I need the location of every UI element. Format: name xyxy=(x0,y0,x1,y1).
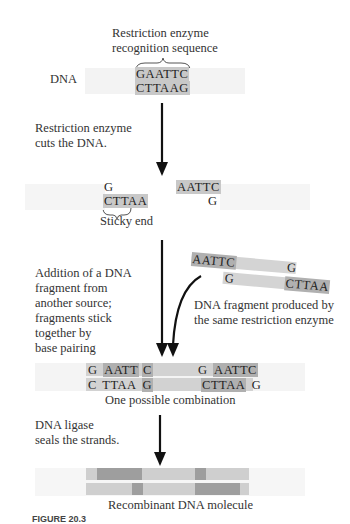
step-ligase-label: DNA ligase seals the strands. xyxy=(35,418,119,448)
sticky-end-label: Sticky end xyxy=(100,214,153,229)
recombinant-label: Recombinant DNA molecule xyxy=(108,498,253,513)
dna-label: DNA xyxy=(50,72,77,87)
recognition-sequence-label: Restriction enzyme recognition sequence xyxy=(112,26,218,56)
recognition-bottom-strand: CTTAAG xyxy=(135,82,190,95)
combination-top-strand: G AATTCG AATTC xyxy=(88,364,258,377)
combination-bottom-strand: C TTAA GCTTAA G xyxy=(88,379,261,392)
right-fragment-bottom: G xyxy=(208,195,218,208)
figure-caption: FIGURE 20.3 xyxy=(32,514,86,524)
combination-label: One possible combination xyxy=(105,393,236,408)
foreign-fragment-label: DNA fragment produced by the same restri… xyxy=(194,298,334,328)
recognition-top-strand: GAATTC xyxy=(135,68,189,81)
left-fragment-faded xyxy=(25,184,105,210)
step-cut-label: Restriction enzyme cuts the DNA. xyxy=(35,121,132,151)
left-fragment-bottom: CTTAA xyxy=(103,195,148,208)
step-addition-label: Addition of a DNA fragment from another … xyxy=(35,266,132,356)
left-fragment-top: G xyxy=(104,181,114,194)
right-fragment-faded xyxy=(220,184,310,210)
right-fragment-top: AATTC xyxy=(176,181,221,194)
